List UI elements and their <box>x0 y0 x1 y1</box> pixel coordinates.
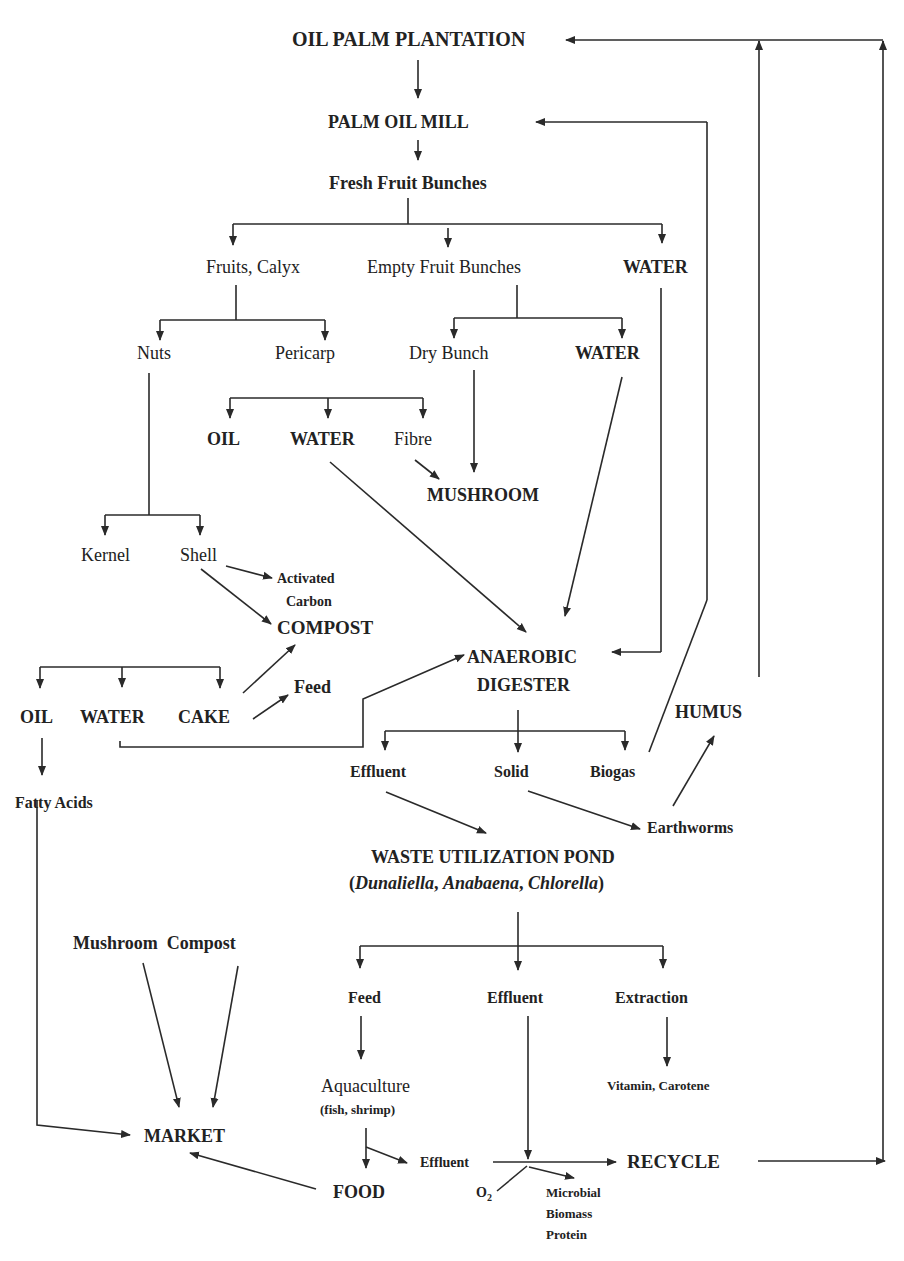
node-oil-palm-plantation: OIL PALM PLANTATION <box>292 29 525 49</box>
species-chlorella: Chlorella <box>528 873 598 893</box>
node-oil-kernel: OIL <box>20 708 53 726</box>
node-dry-bunch: Dry Bunch <box>409 344 489 362</box>
node-extraction: Extraction <box>615 990 688 1006</box>
node-mushroom-compost: Mushroom Compost <box>73 934 236 952</box>
node-recycle: RECYCLE <box>627 1152 720 1171</box>
node-empty-fruit-bunches: Empty Fruit Bunches <box>367 258 521 276</box>
node-activated: Activated <box>277 572 335 586</box>
node-effluent-digester: Effluent <box>350 764 406 780</box>
node-fibre: Fibre <box>394 430 432 448</box>
node-vitamin-carotene: Vitamin, Carotene <box>607 1079 710 1092</box>
node-feed-cake: Feed <box>294 678 331 696</box>
node-carbon: Carbon <box>286 595 332 609</box>
node-effluent-aquaculture: Effluent <box>420 1156 469 1170</box>
node-mushroom: MUSHROOM <box>427 486 539 504</box>
node-feed-pond: Feed <box>348 990 381 1006</box>
species-anabaena: Anabaena <box>443 873 519 893</box>
node-biogas: Biogas <box>590 764 635 780</box>
node-humus: HUMUS <box>675 703 742 721</box>
node-fresh-fruit-bunches: Fresh Fruit Bunches <box>329 174 487 192</box>
node-water-kernel: WATER <box>80 708 145 726</box>
node-food: FOOD <box>333 1183 385 1201</box>
node-fatty-acids: Fatty Acids <box>15 795 93 811</box>
node-digester: DIGESTER <box>477 676 570 694</box>
node-fruits-calyx: Fruits, Calyx <box>206 258 300 276</box>
node-solid: Solid <box>494 764 529 780</box>
node-water-efb: WATER <box>575 344 640 362</box>
node-kernel: Kernel <box>81 546 130 564</box>
node-aquaculture-sub: (fish, shrimp) <box>320 1103 395 1116</box>
node-earthworms: Earthworms <box>647 820 733 836</box>
node-oil-pericarp: OIL <box>207 430 240 448</box>
node-pond-species: (Dunaliella, Anabaena, Chlorella) <box>349 874 604 892</box>
node-palm-oil-mill: PALM OIL MILL <box>328 113 469 131</box>
node-protein: Protein <box>546 1228 587 1241</box>
node-o2: O2 <box>476 1186 492 1203</box>
node-cake: CAKE <box>178 708 230 726</box>
node-shell: Shell <box>180 546 217 564</box>
node-compost: COMPOST <box>277 618 373 637</box>
node-nuts: Nuts <box>137 344 171 362</box>
node-effluent-pond: Effluent <box>487 990 543 1006</box>
species-dunaliella: Dunaliella <box>355 873 434 893</box>
node-water-pericarp: WATER <box>290 430 355 448</box>
node-waste-utilization-pond: WASTE UTILIZATION POND <box>371 848 615 866</box>
node-aquaculture: Aquaculture <box>321 1077 410 1095</box>
node-biomass: Biomass <box>546 1207 592 1220</box>
node-anaerobic: ANAEROBIC <box>467 648 577 666</box>
node-water-ffb: WATER <box>623 258 688 276</box>
node-market: MARKET <box>144 1127 225 1145</box>
node-pericarp: Pericarp <box>275 344 335 362</box>
node-microbial: Microbial <box>546 1186 601 1199</box>
